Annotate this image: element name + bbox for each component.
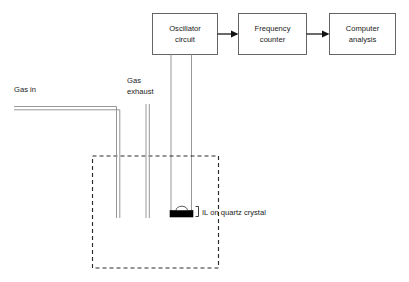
diagram-canvas: Oscillator circuit Frequency counter Com…	[0, 0, 409, 282]
block-computer-label-line1: Computer	[346, 24, 380, 33]
crystal-electrode-block	[170, 211, 193, 218]
crystal-il-droplet	[176, 206, 188, 210]
block-counter-label-line1: Frequency	[255, 24, 291, 33]
arrow-oscillator-to-counter	[218, 31, 239, 38]
block-computer-label-line2: analysis	[349, 35, 377, 44]
label-gas-exhaust-line2: exhaust	[127, 87, 154, 96]
diagram-svg: Oscillator circuit Frequency counter Com…	[0, 0, 409, 282]
block-counter-label-line2: counter	[260, 35, 286, 44]
label-gas-in: Gas in	[14, 85, 36, 94]
label-il-on-quartz-crystal: IL on quartz crystal	[202, 208, 266, 217]
crystal-callout-bracket	[196, 207, 199, 217]
block-frequency-counter[interactable]	[239, 14, 307, 55]
gas-chamber-dashed-boundary	[93, 156, 219, 268]
block-oscillator-label-line2: circuit	[175, 35, 196, 44]
gas-in-tube	[14, 107, 120, 219]
label-gas-exhaust-line1: Gas	[127, 76, 141, 85]
block-oscillator-label-line1: Oscillator	[169, 24, 201, 33]
block-computer-analysis[interactable]	[330, 14, 396, 55]
quartz-crystal-assembly[interactable]	[170, 206, 199, 217]
block-oscillator-circuit[interactable]	[153, 14, 218, 55]
arrow-counter-to-computer	[307, 31, 330, 38]
gas-exhaust-tube	[146, 104, 149, 218]
